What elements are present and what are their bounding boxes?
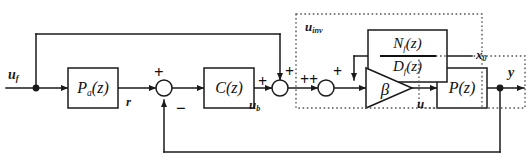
- sign-sum-ub-top: +: [285, 64, 294, 80]
- block-label-inverse-filter: Nf(z) Df(z): [368, 36, 447, 76]
- sum-junction-ub: [272, 80, 288, 96]
- sign-sum-ub-right: +: [300, 72, 309, 88]
- block-label-beta: β: [370, 81, 400, 98]
- sign-sum-ub-left: +: [258, 74, 267, 90]
- block-diagram: uf r ub uinv x0 u y Pa(z) C(z) β P(z) Nf…: [0, 0, 531, 167]
- sum-junction-inv: [318, 80, 334, 96]
- block-label-p: P(z): [437, 80, 487, 96]
- block-label-pa: Pa(z): [68, 80, 118, 97]
- filter-denominator: Df(z): [368, 59, 447, 76]
- sign-sum-r-left: +: [154, 64, 164, 81]
- label-plant-input-u: u: [417, 97, 424, 110]
- label-reference-r: r: [126, 95, 131, 108]
- node-dot-uf: [33, 85, 40, 92]
- fraction-bar: [380, 55, 436, 57]
- label-output-y: y: [508, 66, 514, 80]
- sum-junction-r: [156, 80, 172, 96]
- label-uinv: uinv: [305, 20, 323, 35]
- label-input-uf: uf: [8, 68, 19, 83]
- sign-sum-inv-left: +: [309, 72, 318, 88]
- label-initial-state-x0: x0: [476, 48, 487, 63]
- label-controller-output-ub: ub: [249, 98, 260, 113]
- block-label-c: C(z): [204, 80, 254, 96]
- sign-sum-r-bottom: −: [176, 100, 186, 117]
- filter-numerator: Nf(z): [368, 36, 447, 53]
- sign-sum-inv-top: +: [333, 64, 342, 80]
- node-dot-output: [497, 85, 504, 92]
